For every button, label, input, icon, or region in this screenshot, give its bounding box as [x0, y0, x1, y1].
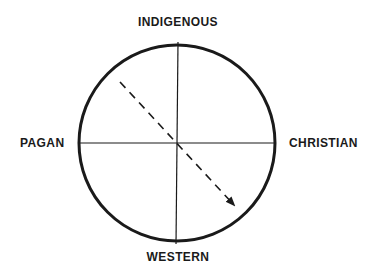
- label-christian: CHRISTIAN: [289, 136, 358, 150]
- label-western: WESTERN: [0, 250, 356, 264]
- label-pagan: PAGAN: [20, 136, 64, 150]
- label-indigenous: INDIGENOUS: [0, 15, 356, 29]
- quadrant-circle-diagram: INDIGENOUS WESTERN PAGAN CHRISTIAN: [0, 0, 378, 280]
